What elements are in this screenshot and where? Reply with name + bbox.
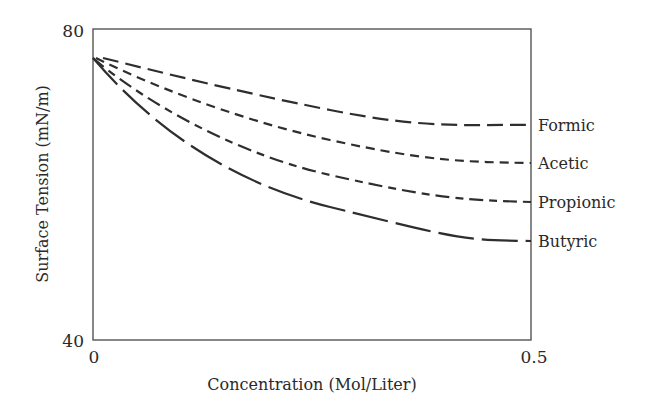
label-butyric: Butyric xyxy=(538,232,597,251)
x-tick-right: 0.5 xyxy=(520,347,547,367)
curve-formic xyxy=(103,58,531,125)
curve-propionic xyxy=(93,58,531,202)
x-tick-left: 0 xyxy=(89,347,100,367)
x-axis-title: Concentration (Mol/Liter) xyxy=(207,375,416,394)
y-tick-bottom: 40 xyxy=(62,331,84,351)
y-tick-top: 80 xyxy=(62,21,84,41)
plot-frame xyxy=(93,29,531,340)
label-acetic: Acetic xyxy=(537,154,589,173)
label-formic: Formic xyxy=(538,116,595,135)
label-propionic: Propionic xyxy=(538,193,615,212)
surface-tension-chart: 80 40 0 0.5 Concentration (Mol/Liter) Su… xyxy=(0,0,655,413)
y-axis-title: Surface Tension (mN/m) xyxy=(33,85,52,283)
curve-acetic xyxy=(96,58,531,163)
series-curves xyxy=(93,58,531,241)
